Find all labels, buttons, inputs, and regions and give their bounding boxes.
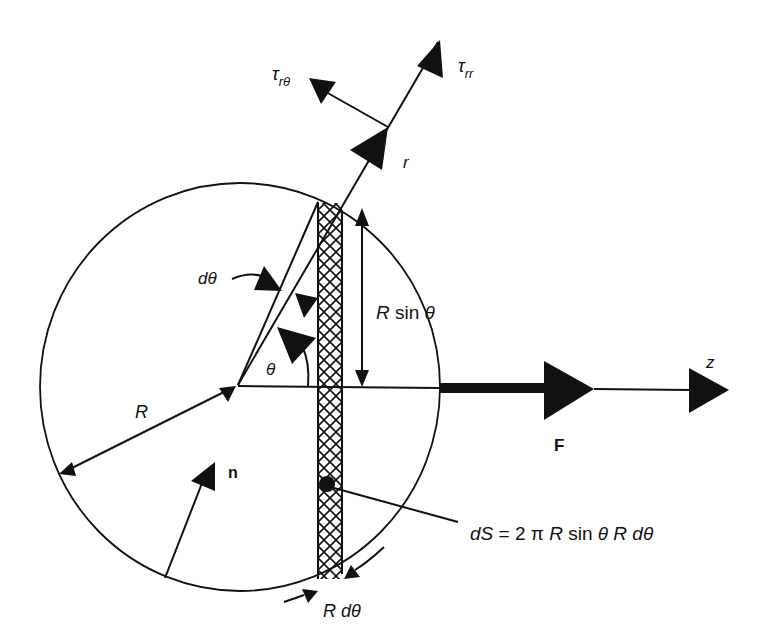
normal-arrowhead-icon	[191, 462, 215, 491]
dtheta-arrowhead-icon	[254, 266, 282, 291]
ds-equation-label: dS = 2 π R sin θ R dθ	[470, 523, 654, 544]
wedge-arrowhead-theta-icon	[277, 327, 316, 364]
tau-rtheta-label: τrθ	[272, 64, 290, 89]
radius-dimension-line	[70, 391, 226, 469]
sphere-stress-diagram: τrθ τrr r dθ R sin θ θ z R F n dS = 2 π …	[0, 0, 763, 643]
tau-rr-label: τrr	[458, 56, 474, 81]
z-axis-inner	[238, 386, 440, 388]
normal-vector-shaft	[165, 478, 204, 578]
ds-leader-line	[334, 488, 458, 522]
dtheta-label: dθ	[198, 269, 217, 288]
dtheta-pointer-curve	[232, 275, 262, 279]
force-arrow-shaft	[440, 383, 546, 393]
z-axis-outer	[594, 389, 690, 390]
r-dtheta-arrowhead-left-icon	[302, 589, 318, 603]
normal-label: n	[228, 464, 238, 481]
surface-ring-strip	[318, 202, 342, 579]
surface-element-dot	[319, 476, 335, 492]
radius-arrowhead-edge-icon	[59, 462, 76, 476]
wedge-arrowhead-upper-icon	[295, 293, 318, 318]
r-label: r	[403, 153, 410, 172]
r-dtheta-arrow-left-curve	[284, 595, 304, 602]
r-arrowhead-icon	[350, 127, 388, 170]
force-arrowhead-icon	[544, 361, 594, 420]
tau-rtheta-arrowhead-icon	[309, 78, 336, 104]
r-sin-theta-label: R sin θ	[376, 302, 436, 323]
radius-label: R	[135, 402, 148, 422]
theta-label: θ	[266, 360, 276, 379]
r-sin-theta-arrowhead-top-icon	[355, 208, 369, 226]
force-label: F	[554, 436, 564, 455]
z-axis-arrowhead-icon	[689, 368, 729, 413]
r-sin-theta-arrowhead-bottom-icon	[355, 370, 369, 387]
z-axis-label: z	[705, 353, 715, 372]
r-dtheta-arrowhead-right-icon	[344, 565, 360, 579]
r-dtheta-label: R dθ	[323, 601, 361, 621]
tau-rtheta-arrow-shaft	[326, 92, 388, 127]
